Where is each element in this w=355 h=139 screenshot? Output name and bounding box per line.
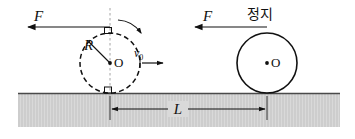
center-dot-right	[265, 61, 269, 65]
radius-label: R	[84, 38, 93, 53]
center-label-right: O	[271, 56, 280, 69]
distance-label-backdrop: L	[168, 101, 188, 117]
velocity-subscript: 0	[139, 53, 143, 62]
rotation-arrow-icon	[118, 20, 141, 33]
diagram-canvas	[0, 0, 355, 139]
force-label-left: F	[34, 9, 43, 24]
center-label-left: O	[114, 56, 123, 69]
rolling-cylinder	[80, 8, 140, 98]
velocity-label: v0	[134, 47, 143, 62]
state-label-stationary: 정지	[247, 7, 273, 21]
distance-label: L	[174, 102, 182, 117]
physics-diagram: F R O v0 F 정지 O L	[0, 0, 355, 139]
stationary-cylinder	[237, 33, 297, 93]
force-label-right: F	[203, 9, 212, 24]
